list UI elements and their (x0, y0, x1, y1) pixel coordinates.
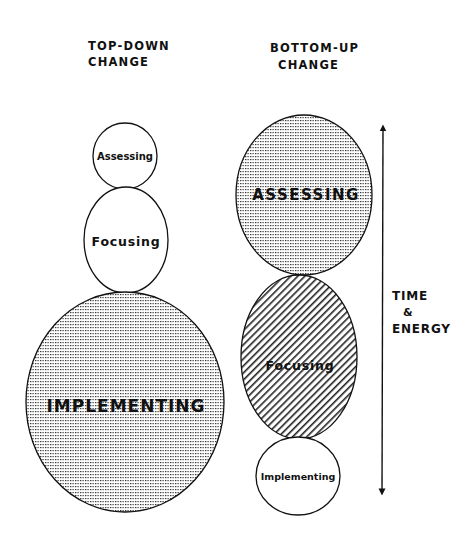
header-bottom-up-line1: BOTTOM-UP (270, 41, 359, 55)
header-top-down: TOP-DOWN CHANGE (88, 39, 170, 69)
time-energy-axis: TIME & ENERGY (382, 128, 451, 492)
top-down-column: Assessing Focusing IMPLEMENTING (26, 123, 224, 512)
header-top-down-line2: CHANGE (88, 55, 149, 69)
bottom-up-implementing-label: Implementing (261, 471, 335, 482)
top-down-assessing-node: Assessing (93, 123, 157, 189)
bottom-up-focusing-label: Focusing (266, 358, 335, 373)
axis-label-time: TIME (392, 289, 428, 303)
top-down-assessing-label: Assessing (97, 151, 153, 162)
top-down-implementing-label: IMPLEMENTING (46, 396, 205, 416)
header-bottom-up: BOTTOM-UP CHANGE (270, 41, 359, 72)
header-bottom-up-line2: CHANGE (278, 58, 339, 72)
axis-label-ampersand: & (403, 306, 413, 319)
axis-label-energy: ENERGY (392, 322, 451, 336)
bottom-up-column: ASSESSING Focusing Implementing (236, 115, 372, 515)
change-diagram: TOP-DOWN CHANGE BOTTOM-UP CHANGE Assessi… (0, 0, 471, 548)
top-down-implementing-node: IMPLEMENTING (26, 292, 224, 512)
bottom-up-implementing-node: Implementing (256, 437, 340, 515)
double-arrow-icon (382, 128, 383, 492)
bottom-up-focusing-node: Focusing (241, 275, 357, 439)
header-top-down-line1: TOP-DOWN (88, 39, 170, 53)
bottom-up-assessing-label: ASSESSING (252, 186, 360, 204)
bottom-up-focusing-ellipse (241, 275, 357, 439)
top-down-focusing-label: Focusing (92, 234, 161, 249)
bottom-up-assessing-node: ASSESSING (236, 115, 372, 275)
top-down-focusing-node: Focusing (84, 187, 168, 293)
